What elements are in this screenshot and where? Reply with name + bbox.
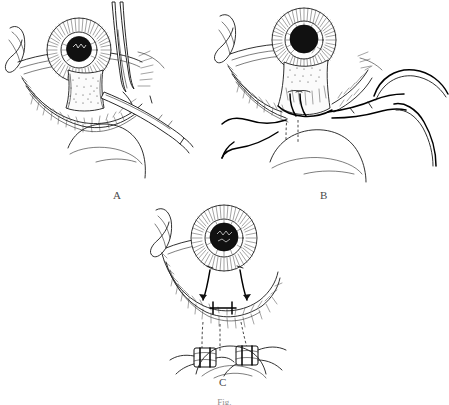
suture-thread-b [328,94,406,118]
eyelash-row-b [227,64,284,111]
figure-caption: Fig. [0,397,449,405]
panel-label-a: A [113,190,121,201]
lateral-canthus-a [5,26,24,72]
cheek-contour-b [270,130,366,182]
scissors-instrument-a[interactable] [112,2,134,104]
curved-needle-lower-b[interactable] [394,104,436,166]
globe-c [191,205,257,271]
figure-panel-a [0,0,230,190]
figure-panel-c [110,198,340,380]
panel-label-b: B [320,190,328,201]
suture-tick-a [150,96,152,103]
loose-suture-ends-b [222,118,286,158]
lateral-canthus-b [214,15,235,63]
tarsal-flap-b [278,60,332,116]
figure-panel-b [208,0,449,190]
mattress-stitches-c [210,302,236,314]
bolster-left-c [170,348,234,374]
panel-label-c: C [219,377,227,388]
forceps-instrument-a[interactable] [101,92,193,153]
figure-root: A B C Fig. [0,0,449,405]
tarsal-flap-a [66,70,104,111]
cheek-contour-a [68,124,145,178]
curved-needle-upper-b[interactable] [374,70,448,100]
lateral-canthus-c [150,209,171,257]
